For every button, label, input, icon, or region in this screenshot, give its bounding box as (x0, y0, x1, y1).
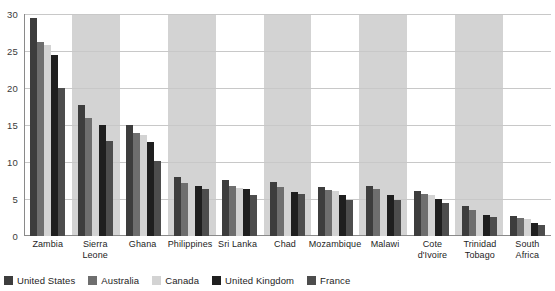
bar[interactable] (394, 200, 401, 236)
bar[interactable] (188, 184, 195, 236)
x-axis-category-label-line: d'Ivoire (409, 250, 456, 261)
bar[interactable] (126, 125, 133, 236)
bar[interactable] (174, 177, 181, 236)
x-axis-category-label: TrinidadTobago (456, 238, 503, 268)
x-axis-category-label-line: Philippines (166, 239, 213, 250)
legend-item[interactable]: France (307, 275, 350, 286)
bar[interactable] (346, 200, 353, 236)
bar[interactable] (284, 189, 291, 236)
bars (264, 14, 312, 236)
bar[interactable] (140, 135, 147, 236)
y-axis-tick-label: 0 (13, 231, 18, 242)
bar[interactable] (133, 133, 140, 236)
x-axis-category-label: SouthAfrica (504, 238, 551, 268)
x-axis-category-label: Sri Lanka (214, 238, 261, 268)
bar[interactable] (37, 42, 44, 236)
bar[interactable] (250, 195, 257, 236)
bar[interactable] (421, 194, 428, 236)
legend-item[interactable]: United Kingdom (212, 275, 294, 286)
bar[interactable] (222, 180, 229, 236)
x-axis-category-label-line: Tobago (456, 250, 503, 261)
legend-item[interactable]: United States (4, 275, 75, 286)
bar[interactable] (476, 212, 483, 236)
bar-group (359, 14, 407, 236)
bar[interactable] (181, 183, 188, 236)
bars (311, 14, 359, 236)
x-axis-category-label: Philippines (166, 238, 213, 268)
bar[interactable] (202, 189, 209, 236)
bar[interactable] (332, 191, 339, 236)
bar[interactable] (483, 215, 490, 236)
x-axis-category-label-line: Sri Lanka (214, 239, 261, 250)
legend-swatch-icon (152, 276, 161, 285)
bar[interactable] (366, 186, 373, 236)
y-axis-tick-label: 30 (7, 9, 18, 20)
bar[interactable] (229, 186, 236, 236)
bar[interactable] (442, 203, 449, 236)
x-axis-category-label-line: Chad (261, 239, 308, 250)
x-axis-category-label-line: Cote (409, 239, 456, 250)
bar[interactable] (298, 194, 305, 236)
bar[interactable] (195, 186, 202, 236)
bars (24, 14, 72, 236)
bar[interactable] (270, 182, 277, 236)
bar[interactable] (30, 18, 37, 236)
bar[interactable] (106, 141, 113, 236)
bar[interactable] (414, 191, 421, 236)
grouped-bar-chart: 051015202530 ZambiaSierraLeoneGhanaPhili… (0, 0, 555, 291)
bar[interactable] (92, 120, 99, 236)
bar-group (24, 14, 72, 236)
bar-group (120, 14, 168, 236)
legend-swatch-icon (212, 276, 221, 285)
x-axis-category-label-line: Ghana (119, 239, 166, 250)
x-axis-category-label: Ghana (119, 238, 166, 268)
bar[interactable] (51, 55, 58, 236)
bar[interactable] (510, 216, 517, 236)
x-axis-category-label-line: South (504, 239, 551, 250)
bar[interactable] (325, 190, 332, 236)
bar-groups (24, 14, 551, 236)
legend-item[interactable]: Canada (152, 275, 199, 286)
bar[interactable] (517, 218, 524, 236)
bar[interactable] (85, 118, 92, 236)
bar[interactable] (469, 210, 476, 236)
bar[interactable] (435, 199, 442, 236)
bar[interactable] (147, 142, 154, 236)
x-axis-category-label-line: Zambia (24, 239, 71, 250)
bar[interactable] (154, 161, 161, 236)
y-axis-tick-label: 15 (7, 120, 18, 131)
x-axis-category-label-line: Mozambique (309, 239, 362, 250)
bar[interactable] (380, 191, 387, 236)
legend-swatch-icon (4, 276, 13, 285)
bar[interactable] (462, 206, 469, 236)
bars (120, 14, 168, 236)
bar[interactable] (339, 195, 346, 236)
bar[interactable] (524, 219, 531, 236)
bar[interactable] (318, 187, 325, 236)
legend-item[interactable]: Australia (88, 275, 139, 286)
bar[interactable] (236, 188, 243, 236)
bar-group (168, 14, 216, 236)
x-axis-category-label: SierraLeone (71, 238, 118, 268)
bar[interactable] (58, 88, 65, 236)
bar[interactable] (373, 189, 380, 236)
bars (359, 14, 407, 236)
bar[interactable] (428, 195, 435, 236)
bar[interactable] (44, 45, 51, 236)
bar[interactable] (99, 125, 106, 236)
bar[interactable] (387, 195, 394, 236)
x-axis-category-label-line: Trinidad (456, 239, 503, 250)
legend-label: Australia (101, 275, 139, 286)
bar[interactable] (243, 189, 250, 236)
bar[interactable] (277, 187, 284, 236)
bar[interactable] (538, 225, 545, 236)
y-axis-tick-label: 10 (7, 157, 18, 168)
bar[interactable] (490, 217, 497, 236)
bar-group (407, 14, 455, 236)
legend-swatch-icon (307, 276, 316, 285)
y-axis-labels: 051015202530 (0, 14, 22, 236)
bar[interactable] (78, 105, 85, 236)
bar[interactable] (531, 223, 538, 236)
bar[interactable] (291, 192, 298, 236)
bars (216, 14, 264, 236)
